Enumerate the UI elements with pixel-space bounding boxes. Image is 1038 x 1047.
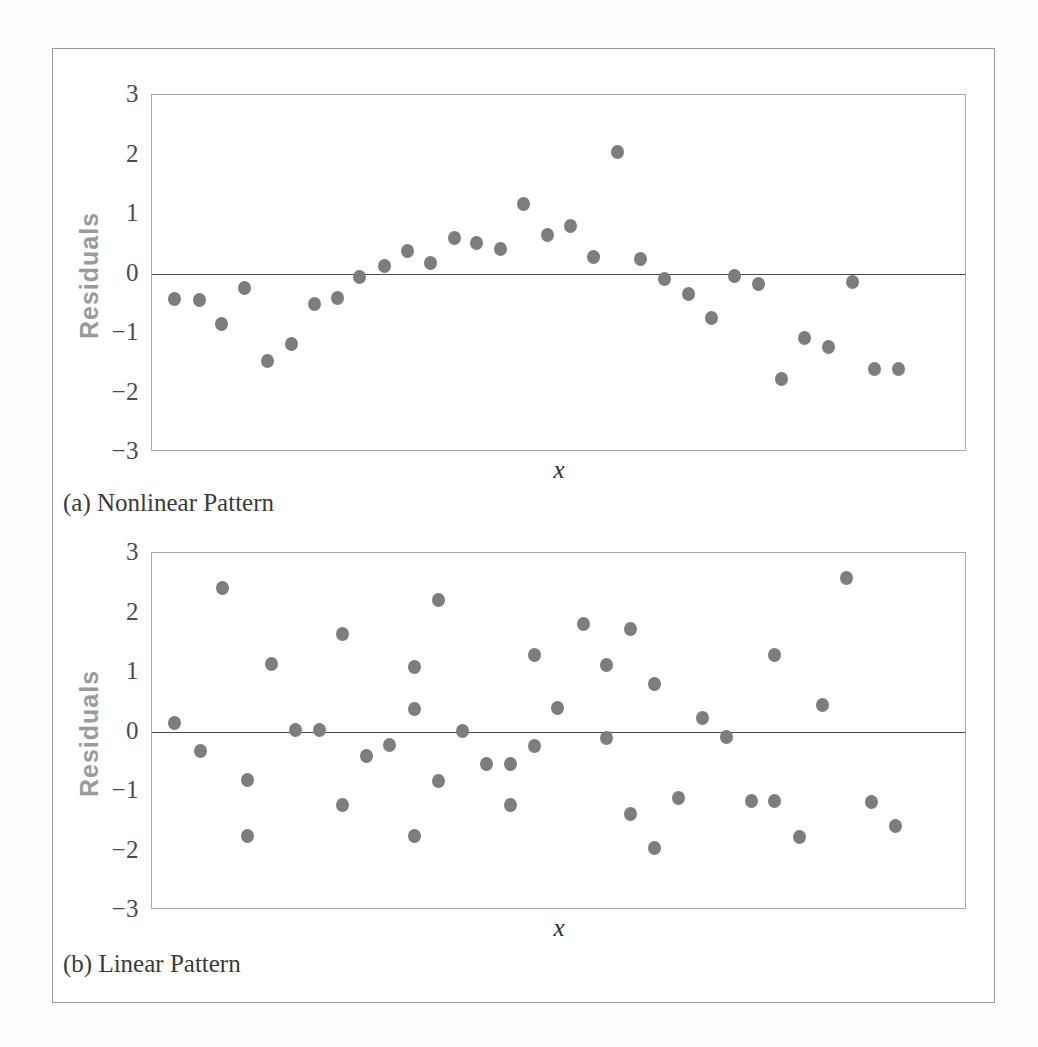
y-tick-label-a-0: 3 — [126, 80, 139, 108]
scatter-point — [564, 219, 577, 233]
y-tick-label-b-4: −1 — [111, 776, 139, 804]
scatter-point — [383, 738, 396, 752]
panel-a: Residuals 3210−1−2−3 x (a) Nonlinear Pat… — [53, 49, 996, 519]
y-tick-label-a-5: −2 — [111, 378, 139, 406]
scatter-point — [432, 774, 445, 788]
zero-reference-line-a — [152, 274, 965, 275]
scatter-point — [611, 145, 624, 159]
x-axis-label-a: x — [529, 456, 589, 484]
scatter-point — [308, 297, 321, 311]
figure-page: Residuals 3210−1−2−3 x (a) Nonlinear Pat… — [0, 0, 1038, 1047]
scatter-point — [168, 716, 181, 730]
y-tick-label-b-6: −3 — [111, 895, 139, 923]
y-tick-label-b-0: 3 — [126, 538, 139, 566]
scatter-point — [840, 571, 853, 585]
scatter-point — [517, 197, 530, 211]
panel-b: Residuals 3210−1−2−3 x (b) Linear Patter… — [53, 507, 996, 977]
scatter-point — [720, 730, 733, 744]
scatter-point — [504, 757, 517, 771]
scatter-point — [705, 311, 718, 325]
scatter-point — [504, 798, 517, 812]
y-tick-label-b-1: 2 — [126, 598, 139, 626]
scatter-point — [634, 252, 647, 266]
scatter-point — [215, 317, 228, 331]
scatter-point — [798, 331, 811, 345]
scatter-point — [241, 773, 254, 787]
scatter-point — [193, 293, 206, 307]
scatter-point — [682, 287, 695, 301]
scatter-point — [313, 723, 326, 737]
scatter-point — [408, 660, 421, 674]
zero-reference-line-b — [152, 732, 965, 733]
scatter-point — [336, 627, 349, 641]
scatter-point — [624, 807, 637, 821]
scatter-point — [408, 702, 421, 716]
scatter-point — [331, 291, 344, 305]
scatter-point — [216, 581, 229, 595]
scatter-point — [194, 744, 207, 758]
scatter-point — [480, 757, 493, 771]
scatter-point — [238, 281, 251, 295]
scatter-point — [672, 791, 685, 805]
scatter-point — [775, 372, 788, 386]
scatter-point — [401, 244, 414, 258]
scatter-point — [745, 794, 758, 808]
figure-frame: Residuals 3210−1−2−3 x (a) Nonlinear Pat… — [52, 48, 995, 1003]
scatter-point — [551, 701, 564, 715]
x-axis-label-b: x — [529, 914, 589, 942]
scatter-point — [889, 819, 902, 833]
scatter-point — [648, 841, 661, 855]
y-tick-label-a-3: 0 — [126, 259, 139, 287]
plot-area-a — [151, 94, 966, 451]
scatter-point — [868, 362, 881, 376]
scatter-point — [168, 292, 181, 306]
scatter-point — [696, 711, 709, 725]
scatter-point — [456, 724, 469, 738]
scatter-point — [528, 739, 541, 753]
scatter-point — [587, 250, 600, 264]
scatter-point — [470, 236, 483, 250]
scatter-point — [424, 256, 437, 270]
scatter-point — [793, 830, 806, 844]
scatter-point — [360, 749, 373, 763]
scatter-point — [494, 242, 507, 256]
scatter-point — [768, 794, 781, 808]
scatter-point — [432, 593, 445, 607]
scatter-point — [658, 272, 671, 286]
y-tick-label-a-4: −1 — [111, 318, 139, 346]
scatter-point — [353, 270, 366, 284]
y-axis-label-b: Residuals — [75, 670, 104, 797]
scatter-point — [600, 658, 613, 672]
scatter-point — [752, 277, 765, 291]
scatter-point — [408, 829, 421, 843]
y-tick-label-b-5: −2 — [111, 836, 139, 864]
scatter-point — [846, 275, 859, 289]
scatter-point — [289, 723, 302, 737]
scatter-point — [600, 731, 613, 745]
scatter-point — [648, 677, 661, 691]
y-axis-label-a: Residuals — [75, 212, 104, 339]
scatter-point — [261, 354, 274, 368]
panel-caption-b: (b) Linear Pattern — [63, 950, 241, 978]
scatter-point — [448, 231, 461, 245]
scatter-point — [577, 617, 590, 631]
scatter-point — [768, 648, 781, 662]
scatter-point — [822, 340, 835, 354]
scatter-point — [865, 795, 878, 809]
scatter-point — [528, 648, 541, 662]
y-tick-label-b-3: 0 — [126, 717, 139, 745]
scatter-point — [336, 798, 349, 812]
y-tick-label-b-2: 1 — [126, 657, 139, 685]
scatter-point — [285, 337, 298, 351]
scatter-point — [728, 269, 741, 283]
y-tick-label-a-2: 1 — [126, 199, 139, 227]
scatter-point — [624, 622, 637, 636]
scatter-point — [241, 829, 254, 843]
y-tick-label-a-6: −3 — [111, 437, 139, 465]
scatter-point — [378, 259, 391, 273]
plot-area-b — [151, 552, 966, 909]
scatter-point — [541, 228, 554, 242]
scatter-point — [265, 657, 278, 671]
y-tick-label-a-1: 2 — [126, 140, 139, 168]
scatter-point — [816, 698, 829, 712]
